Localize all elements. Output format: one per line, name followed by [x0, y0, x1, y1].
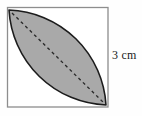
geometry-figure: 3 cm [0, 0, 142, 116]
side-length-label: 3 cm [112, 48, 136, 62]
